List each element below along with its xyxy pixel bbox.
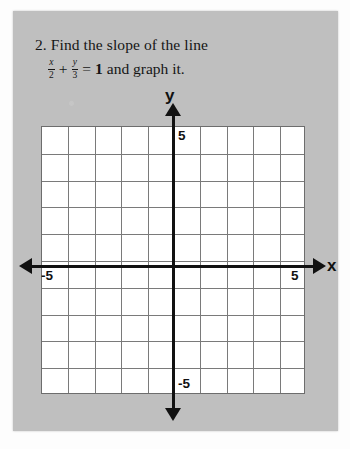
tick-label-y-negative-5: -5 [178, 377, 190, 391]
y-axis-label: y [165, 87, 174, 104]
grid-line-vertical [227, 127, 228, 393]
x-axis-left-arrow-icon [19, 258, 32, 274]
x-axis-label: x [327, 257, 336, 274]
scanned-page: 2. Find the slope of the line x 2 + y 3 … [0, 0, 350, 449]
grid-line-vertical [200, 127, 201, 393]
coordinate-graph: y x 5 -5 -5 5 [13, 11, 338, 431]
tick-label-y-positive-5: 5 [178, 129, 186, 143]
tick-label-x-positive-5: 5 [291, 269, 299, 283]
grid-line-vertical [253, 127, 254, 393]
grid-line-vertical [68, 127, 69, 393]
grid-line-vertical [121, 127, 122, 393]
tick-label-x-negative-5: -5 [41, 269, 53, 283]
grid-line-vertical [280, 127, 281, 393]
y-axis-down-arrow-icon [165, 408, 181, 421]
grid-line-vertical [95, 127, 96, 393]
x-axis-right-arrow-icon [313, 258, 326, 274]
worksheet-sheet: 2. Find the slope of the line x 2 + y 3 … [13, 11, 338, 431]
y-axis [172, 115, 175, 411]
grid-line-vertical [148, 127, 149, 393]
